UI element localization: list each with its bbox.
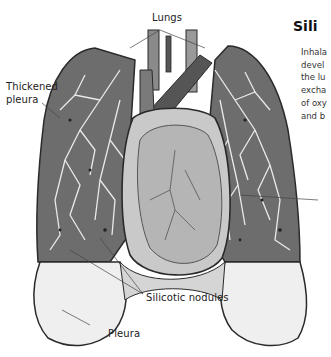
- label-lungs: Lungs: [152, 12, 182, 24]
- article-body: Inhala devel the lu excha of oxy and b: [301, 46, 331, 122]
- body-line: Inhala: [301, 46, 331, 59]
- label-thickened-pleura-2: pleura: [6, 94, 38, 106]
- label-thickened-pleura-1: Thickened: [6, 81, 58, 93]
- right-pleura: [220, 262, 306, 346]
- label-pleura: Pleura: [108, 328, 140, 340]
- body-line: devel: [301, 59, 331, 72]
- heart: [137, 125, 221, 263]
- trachea: [166, 36, 171, 72]
- body-line: of oxy: [301, 97, 331, 110]
- body-line: excha: [301, 84, 331, 97]
- label-silicotic-nodules: Silicotic nodules: [146, 292, 229, 304]
- body-line: and b: [301, 110, 331, 123]
- article-title: Sili: [293, 18, 317, 34]
- body-line: the lu: [301, 71, 331, 84]
